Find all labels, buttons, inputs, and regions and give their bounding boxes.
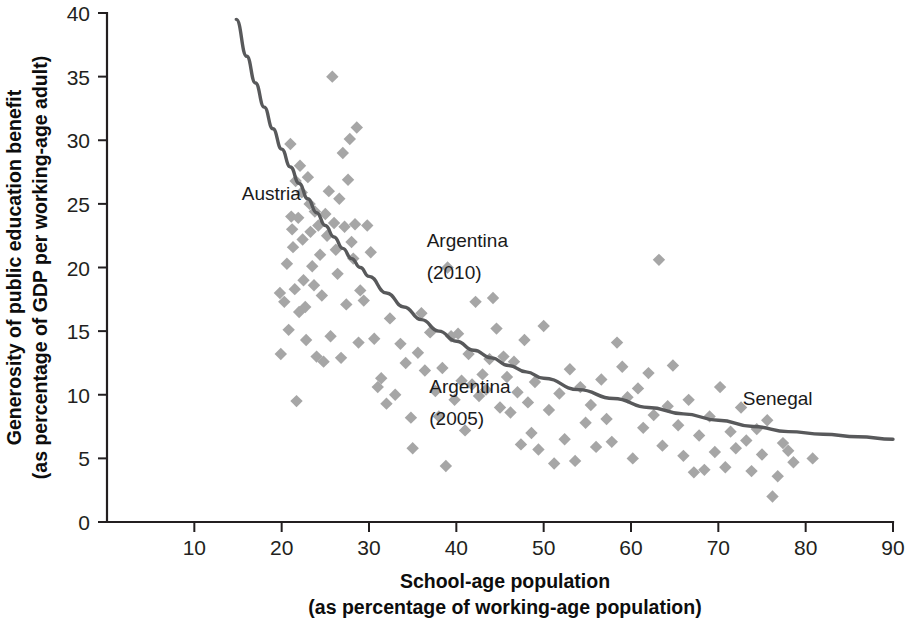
data-point	[419, 364, 431, 376]
data-point	[406, 442, 418, 454]
data-point	[389, 389, 401, 401]
data-point	[585, 399, 597, 411]
y-tick-label: 20	[67, 257, 90, 280]
data-point	[354, 284, 366, 296]
data-point	[730, 442, 742, 454]
data-point	[667, 359, 679, 371]
data-point	[380, 397, 392, 409]
data-point	[333, 193, 345, 205]
y-tick-label: 25	[67, 193, 90, 216]
data-point	[282, 324, 294, 336]
data-point	[766, 490, 778, 502]
data-point	[365, 246, 377, 258]
data-point	[344, 133, 356, 145]
data-point	[525, 427, 537, 439]
data-point	[518, 334, 530, 346]
data-point	[558, 433, 570, 445]
data-point	[306, 260, 318, 272]
data-point	[632, 382, 644, 394]
data-point	[595, 373, 607, 385]
annotation-austria: Austria	[242, 183, 302, 204]
data-point	[296, 233, 308, 245]
data-point	[553, 387, 565, 399]
data-point	[275, 348, 287, 360]
data-point	[316, 289, 328, 301]
data-markers	[274, 70, 819, 502]
data-point	[358, 294, 370, 306]
data-point	[490, 322, 502, 334]
data-point	[394, 338, 406, 350]
data-point	[297, 274, 309, 286]
y-tick-label: 15	[67, 320, 90, 343]
trend-curve	[236, 19, 893, 439]
data-point	[600, 413, 612, 425]
data-point	[653, 254, 665, 266]
data-point	[335, 352, 347, 364]
y-tick-label: 10	[67, 384, 90, 407]
data-point	[494, 401, 506, 413]
data-point	[287, 241, 299, 253]
annotation-argentina: Argentina	[427, 230, 509, 251]
y-tick-label: 5	[78, 447, 90, 470]
data-point	[331, 268, 343, 280]
data-point	[787, 456, 799, 468]
data-point	[543, 404, 555, 416]
data-point	[761, 414, 773, 426]
data-point	[751, 423, 763, 435]
data-point	[352, 336, 364, 348]
data-point	[806, 452, 818, 464]
x-tick-label: 50	[532, 536, 555, 559]
data-point	[682, 394, 694, 406]
data-point	[627, 452, 639, 464]
x-axis-title-line2: (as percentage of working-age population…	[308, 596, 701, 618]
x-tick-label: 80	[794, 536, 817, 559]
data-point	[590, 441, 602, 453]
x-tick-label: 40	[445, 536, 468, 559]
data-point	[677, 450, 689, 462]
data-point	[648, 409, 660, 421]
data-point	[351, 121, 363, 133]
data-point	[436, 362, 448, 374]
data-point	[314, 249, 326, 261]
data-point	[302, 171, 314, 183]
data-point	[324, 330, 336, 342]
data-point	[337, 147, 349, 159]
data-point	[672, 419, 684, 431]
data-point	[368, 333, 380, 345]
x-tick-label: 20	[270, 536, 293, 559]
data-point	[294, 160, 306, 172]
data-point	[511, 386, 523, 398]
x-axis-title-line1: School-age population	[400, 570, 610, 592]
y-axis-title-line1: Generosity of public education benefit	[3, 89, 25, 445]
data-point	[772, 470, 784, 482]
data-point	[579, 417, 591, 429]
data-point	[342, 173, 354, 185]
scatter-chart: AustriaArgentina(2010)Argentina(2005)Sen…	[0, 0, 915, 622]
x-tick-label: 30	[357, 536, 380, 559]
data-point	[504, 406, 516, 418]
y-tick-label: 35	[67, 66, 90, 89]
data-point	[361, 219, 373, 231]
x-tick-label: 60	[619, 536, 642, 559]
data-point	[693, 429, 705, 441]
data-point	[286, 223, 298, 235]
annotation-2005: (2005)	[429, 408, 484, 429]
data-point	[340, 298, 352, 310]
data-point	[642, 367, 654, 379]
data-point	[284, 138, 296, 150]
data-point	[323, 185, 335, 197]
data-point	[611, 336, 623, 348]
data-point	[616, 361, 628, 373]
data-point	[281, 257, 293, 269]
data-point	[405, 411, 417, 423]
data-point	[606, 436, 618, 448]
data-point	[548, 457, 560, 469]
data-point	[349, 218, 361, 230]
data-point	[756, 448, 768, 460]
data-point	[698, 464, 710, 476]
data-point	[290, 395, 302, 407]
y-tick-label: 40	[67, 2, 90, 25]
data-point	[745, 465, 757, 477]
x-axis-ticks	[194, 522, 893, 532]
data-point	[714, 381, 726, 393]
